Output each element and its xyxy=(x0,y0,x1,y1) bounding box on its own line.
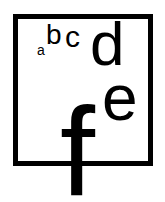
letter-e: e xyxy=(102,66,138,130)
letter-c: c xyxy=(65,22,80,52)
letter-f: f xyxy=(60,90,95,202)
letter-group: a b c d e f xyxy=(0,0,165,202)
letter-b: b xyxy=(46,21,62,49)
figure-canvas: a b c d e f xyxy=(0,0,165,202)
letter-a: a xyxy=(37,43,45,57)
